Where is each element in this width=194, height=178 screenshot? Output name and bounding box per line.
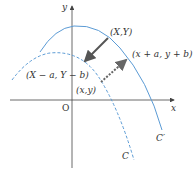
translation-diagram: y x O (X,Y) (x + a, y + b) (X − a, Y − b… bbox=[0, 0, 194, 178]
point-label-xayb: (x + a, y + b) bbox=[132, 50, 193, 59]
point-label-XY: (X,Y) bbox=[110, 28, 132, 37]
x-axis-label: x bbox=[171, 104, 176, 113]
curve-c-label: C bbox=[122, 152, 129, 161]
origin-label: O bbox=[62, 104, 69, 113]
dashed-arrow bbox=[101, 60, 126, 82]
point-label-xy: (x,y) bbox=[76, 86, 96, 95]
curve-c-prime-label: C′ bbox=[156, 134, 165, 143]
curve-c bbox=[12, 53, 134, 160]
point-label-XaYb: (X − a, Y − b) bbox=[26, 71, 89, 80]
solid-arrow bbox=[85, 38, 108, 61]
y-axis-label: y bbox=[62, 3, 67, 12]
diagram-canvas bbox=[0, 0, 194, 178]
